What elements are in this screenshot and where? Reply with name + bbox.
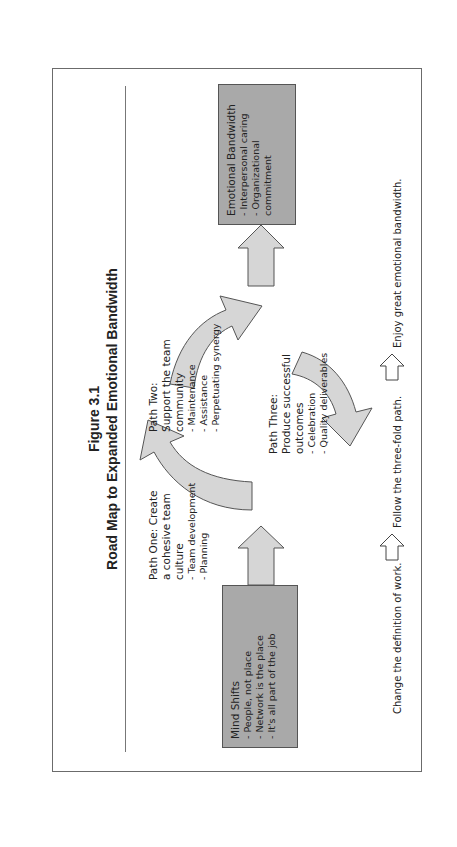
legend-step-1: Change the definition of work. — [392, 563, 403, 715]
list-item: - Maintenance — [186, 322, 198, 432]
arrow-right-icon — [238, 526, 284, 585]
list-item: - Perpetuating synergy — [210, 322, 222, 432]
legend-arrow-icon — [380, 354, 404, 380]
list-item: - Planning — [198, 480, 210, 580]
path-three-heading: Produce successful — [280, 344, 293, 454]
path-two-heading: community — [173, 322, 186, 432]
list-item: - Network is the place — [254, 594, 266, 739]
mind-shifts-box: Mind Shifts - People, not place - Networ… — [222, 585, 298, 748]
path-two-heading: Support the team — [160, 322, 173, 432]
arrow-right-icon — [238, 225, 284, 286]
list-item: - Team development — [186, 480, 198, 580]
emotional-bandwidth-box: Emotional Bandwidth - Interpersonal cari… — [218, 84, 296, 225]
legend-step-3: Enjoy great emotional bandwidth. — [392, 179, 403, 348]
list-item: - Interpersonal caring — [238, 93, 250, 216]
emotional-bandwidth-heading: Emotional Bandwidth — [225, 93, 238, 216]
path-three-heading: outcomes — [293, 344, 306, 454]
figure-canvas: Figure 3.1 Road Map to Expanded Emotiona… — [52, 66, 424, 772]
path-one-heading: Path One: Create — [147, 480, 160, 580]
legend-arrow-icon — [380, 534, 404, 560]
list-item: - Assistance — [198, 322, 210, 432]
legend-step-2: Follow the three-fold path. — [392, 396, 403, 528]
path-two-label: Path Two: Support the team community - M… — [147, 322, 222, 432]
list-item: - It's all part of the job — [266, 594, 278, 739]
list-item: - Organizational commitment — [250, 93, 274, 216]
path-two-heading: Path Two: — [147, 322, 160, 432]
path-one-label: Path One: Create a cohesive team culture… — [147, 480, 210, 580]
list-item: - Quality deliverables — [318, 344, 330, 454]
path-three-label: Path Three: Produce successful outcomes … — [267, 344, 330, 454]
path-one-heading: a cohesive team — [160, 480, 173, 580]
path-three-heading: Path Three: — [267, 344, 280, 454]
mind-shifts-heading: Mind Shifts — [229, 594, 242, 739]
list-item: - Celebration — [306, 344, 318, 454]
list-item: - People, not place — [242, 594, 254, 739]
path-one-heading: culture — [173, 480, 186, 580]
